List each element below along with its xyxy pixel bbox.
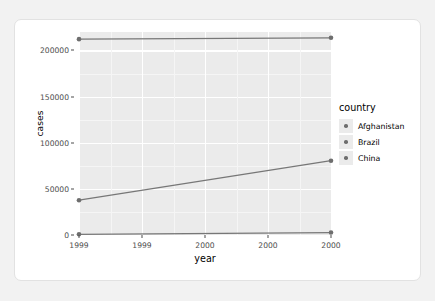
legend: country AfghanistanBrazilChina: [339, 102, 425, 166]
x-tick-label: 2000: [195, 241, 214, 250]
y-tick-mark: [71, 235, 74, 236]
series-line-china: [79, 38, 331, 39]
series-line-brazil: [79, 161, 331, 200]
y-tick-mark: [71, 96, 74, 97]
x-tick-label: 1999: [132, 241, 151, 250]
legend-dot-icon: [344, 156, 348, 160]
legend-item-china[interactable]: China: [339, 150, 425, 166]
series-layer: [79, 32, 331, 235]
x-tick-mark: [331, 235, 332, 238]
legend-dot-icon: [344, 124, 348, 128]
legend-key-icon: [339, 119, 353, 133]
legend-item-afghanistan[interactable]: Afghanistan: [339, 118, 425, 134]
x-tick-mark: [205, 235, 206, 238]
chart-card: 050000100000150000200000 cases 199919992…: [14, 19, 421, 281]
legend-title: country: [339, 102, 425, 113]
legend-label: Afghanistan: [358, 122, 404, 131]
data-point: [329, 35, 334, 40]
legend-item-brazil[interactable]: Brazil: [339, 134, 425, 150]
x-tick-label: 2000: [321, 241, 340, 250]
x-tick-mark: [142, 235, 143, 238]
x-tick-label: 1999: [69, 241, 88, 250]
legend-key-icon: [339, 135, 353, 149]
x-axis-ticks: 19991999200020002000: [79, 235, 331, 253]
data-point: [329, 158, 334, 163]
x-tick-mark: [268, 235, 269, 238]
data-point: [77, 37, 82, 42]
line-chart: 050000100000150000200000 cases 199919992…: [15, 20, 420, 280]
y-axis-ticks: 050000100000150000200000: [45, 32, 75, 235]
y-axis-title: cases: [34, 94, 45, 154]
x-axis-title: year: [79, 253, 331, 264]
plot-panel: [79, 32, 331, 235]
legend-items: AfghanistanBrazilChina: [339, 118, 425, 166]
y-tick-label: 0: [64, 231, 69, 240]
x-tick-label: 2000: [258, 241, 277, 250]
y-tick-mark: [71, 142, 74, 143]
legend-label: China: [358, 154, 380, 163]
gridline-major-vertical: [331, 32, 332, 235]
legend-label: Brazil: [358, 138, 380, 147]
data-point: [77, 198, 82, 203]
y-tick-mark: [71, 188, 74, 189]
y-tick-label: 200000: [40, 46, 69, 55]
legend-dot-icon: [344, 140, 348, 144]
y-tick-mark: [71, 50, 74, 51]
y-tick-label: 50000: [45, 184, 69, 193]
x-tick-mark: [79, 235, 80, 238]
legend-key-icon: [339, 151, 353, 165]
